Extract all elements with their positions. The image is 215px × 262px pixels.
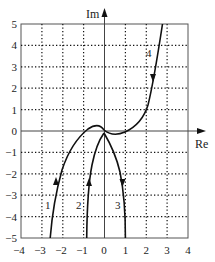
curve-2-arrow-icon (86, 178, 92, 186)
svg-text:−4: −4 (5, 211, 17, 223)
curve-1 (50, 126, 104, 238)
svg-text:−2: −2 (55, 244, 67, 256)
re-axis-arrow-icon (197, 128, 206, 134)
re-axis-label: Re (195, 137, 208, 151)
svg-text:0: 0 (12, 125, 18, 137)
svg-text:−1: −1 (76, 244, 88, 256)
svg-text:−1: −1 (5, 146, 17, 158)
svg-text:−3: −3 (34, 244, 46, 256)
svg-text:−2: −2 (5, 168, 17, 180)
curve-3-label: 3 (115, 199, 121, 211)
svg-text:0: 0 (101, 244, 107, 256)
svg-text:1: 1 (12, 104, 18, 116)
svg-text:2: 2 (12, 82, 18, 94)
im-axis-arrow-icon (102, 8, 108, 17)
curve-1-label: 1 (45, 199, 51, 211)
svg-text:4: 4 (12, 39, 18, 51)
svg-text:−5: −5 (5, 232, 17, 244)
y-tick-labels: 5 4 3 2 1 0 −1 −2 −3 −4 −5 (5, 18, 17, 244)
curve-4-label: 4 (146, 47, 152, 59)
svg-text:−3: −3 (5, 189, 17, 201)
im-axis-label: Im (86, 7, 100, 21)
svg-text:4: 4 (185, 244, 191, 256)
svg-text:5: 5 (12, 18, 18, 30)
x-tick-labels: −4 −3 −2 −1 0 1 2 3 4 (13, 244, 191, 256)
root-locus-chart: Im Re 5 4 3 2 1 0 −1 −2 −3 −4 −5 −4 −3 −… (0, 0, 215, 262)
curve-3-arrow-icon (120, 179, 126, 187)
svg-text:1: 1 (123, 244, 129, 256)
svg-text:3: 3 (164, 244, 170, 256)
curve-4-arrow-icon (150, 74, 156, 82)
svg-text:3: 3 (12, 61, 18, 73)
curve-1-arrow-icon (53, 177, 59, 185)
svg-text:−4: −4 (13, 244, 25, 256)
svg-text:2: 2 (144, 244, 150, 256)
curve-2-label: 2 (76, 199, 82, 211)
